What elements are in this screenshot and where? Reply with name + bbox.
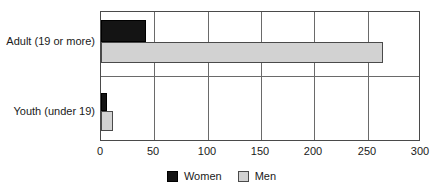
legend-item-men: Men	[238, 170, 276, 182]
x-tick-100: 100	[187, 145, 227, 158]
x-tick-0: 0	[80, 145, 120, 158]
bar-adult-women	[101, 20, 146, 42]
x-tick-50: 50	[133, 145, 173, 158]
bar-chart: Adult (19 or more) Youth (under 19) 0 50…	[0, 0, 443, 195]
legend-label-women: Women	[184, 170, 222, 182]
chart-legend: Women Men	[0, 170, 443, 182]
x-tick-300: 300	[400, 145, 440, 158]
legend-swatch-men-icon	[238, 171, 249, 182]
y-axis-label-adult: Adult (19 or more)	[0, 35, 95, 47]
bar-youth-men	[101, 111, 113, 131]
x-tick-250: 250	[347, 145, 387, 158]
category-divider	[101, 76, 419, 77]
legend-swatch-women-icon	[167, 171, 178, 182]
legend-label-men: Men	[255, 170, 276, 182]
legend-item-women: Women	[167, 170, 222, 182]
plot-area	[100, 11, 420, 141]
bar-youth-women	[101, 93, 107, 111]
y-axis-label-youth: Youth (under 19)	[0, 105, 95, 117]
x-tick-200: 200	[293, 145, 333, 158]
bar-adult-men	[101, 42, 383, 63]
x-tick-150: 150	[240, 145, 280, 158]
